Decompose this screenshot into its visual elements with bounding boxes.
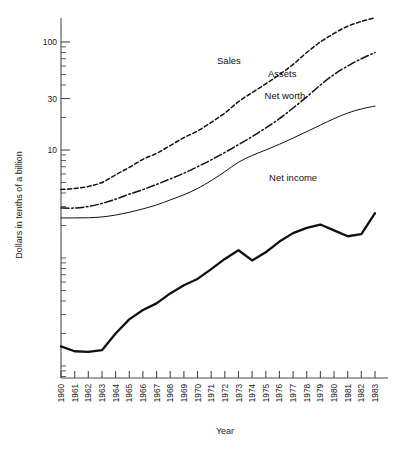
x-tick-label: 1972 (221, 384, 230, 403)
x-tick-label: 1967 (153, 384, 162, 403)
x-tick-label: 1982 (357, 384, 366, 403)
log-line-chart: 1030100 19601961196219631964196519661967… (0, 0, 398, 450)
x-tick-label: 1963 (98, 384, 107, 403)
x-tick-label: 1983 (371, 384, 380, 403)
x-tick-label: 1962 (84, 384, 93, 403)
x-tick-label: 1970 (194, 384, 203, 403)
y-tick-label: 10 (48, 145, 58, 155)
x-tick-label: 1960 (57, 384, 66, 403)
x-tick-label: 1961 (71, 384, 80, 403)
series-labels: SalesAssetsNet worthNet income (217, 55, 317, 182)
series-line-net-income (61, 213, 375, 352)
x-tick-label: 1979 (316, 384, 325, 403)
x-tick-label: 1976 (275, 384, 284, 403)
x-tick-label: 1978 (303, 384, 312, 403)
y-axis-ticks (61, 42, 70, 377)
x-axis-title: Year (216, 426, 234, 436)
x-tick-label: 1973 (235, 384, 244, 403)
y-tick-label: 100 (43, 37, 57, 47)
x-axis-ticks (61, 371, 375, 378)
series-label-sales: Sales (217, 55, 241, 66)
x-tick-label: 1966 (139, 384, 148, 403)
x-axis-tick-labels: 1960196119621963196419651966196719681969… (57, 384, 380, 403)
x-tick-label: 1981 (344, 384, 353, 403)
x-tick-label: 1975 (262, 384, 271, 403)
y-tick-label: 30 (48, 94, 58, 104)
chart-figure: 1030100 19601961196219631964196519661967… (0, 0, 398, 450)
x-tick-label: 1965 (125, 384, 134, 403)
x-tick-label: 1964 (112, 384, 121, 403)
series-line-sales (61, 18, 375, 190)
series-label-assets: Assets (268, 68, 297, 79)
x-tick-label: 1977 (289, 384, 298, 403)
series-paths (61, 18, 375, 352)
x-tick-label: 1980 (330, 384, 339, 403)
series-label-net-income: Net income (269, 172, 317, 183)
x-tick-label: 1968 (166, 384, 175, 403)
y-axis-tick-labels: 1030100 (43, 37, 57, 155)
x-tick-label: 1969 (180, 384, 189, 403)
series-label-net-worth: Net worth (265, 90, 306, 101)
x-tick-label: 1971 (207, 384, 216, 403)
series-line-assets (61, 52, 375, 208)
y-axis-title: Dollars in tenths of a billion (14, 151, 24, 259)
x-tick-label: 1974 (248, 384, 257, 403)
